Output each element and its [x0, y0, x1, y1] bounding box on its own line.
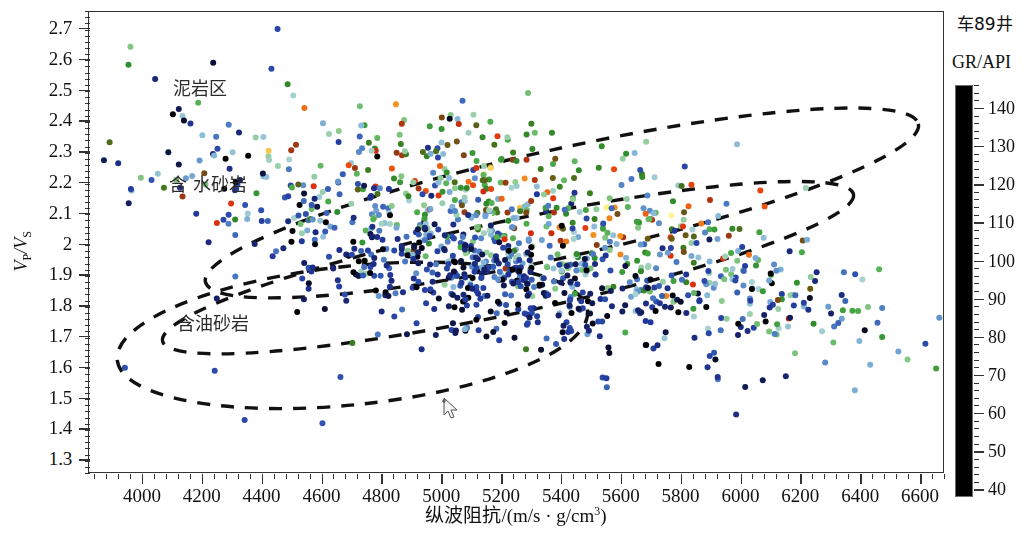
y-axis-minor-tick: [85, 227, 90, 228]
figure-root: 泥岩区 含 水砂岩 含油砂岩 1.31.41.51.61.71.81.922.1…: [0, 0, 1026, 543]
y-axis-minor-tick: [85, 79, 90, 80]
y-axis-minor-tick: [85, 368, 90, 369]
x-axis-major-tick: [322, 474, 324, 484]
colorbar-minor-tick: [974, 93, 979, 94]
x-axis-minor-tick: [537, 474, 538, 479]
x-axis-minor-tick: [190, 474, 191, 479]
x-axis-minor-tick: [94, 474, 95, 479]
y-axis-minor-tick: [85, 374, 90, 375]
y-axis-major-tick: [79, 59, 90, 61]
x-axis-minor-tick: [872, 474, 873, 479]
colorbar-major-tick: [974, 451, 984, 452]
y-axis-minor-tick: [85, 436, 90, 437]
y-axis-major-tick: [79, 428, 90, 430]
y-axis-minor-tick: [85, 128, 90, 129]
colorbar-major-tick: [974, 184, 984, 185]
y-axis-minor-tick: [85, 393, 90, 394]
plot-frame: 泥岩区 含 水砂岩 含油砂岩: [88, 11, 944, 473]
colorbar-title: GR/API: [952, 52, 1011, 73]
colorbar-minor-tick: [974, 436, 979, 437]
y-axis-minor-tick: [85, 288, 90, 289]
x-axis-minor-tick: [226, 474, 227, 479]
x-axis-minor-tick: [417, 474, 418, 479]
y-axis-minor-tick: [85, 362, 90, 363]
colorbar-minor-tick: [974, 116, 979, 117]
x-axis-minor-tick: [645, 474, 646, 479]
colorbar-minor-tick: [974, 314, 979, 315]
y-axis-minor-tick: [85, 424, 90, 425]
y-axis-major-tick: [79, 90, 90, 92]
colorbar-minor-tick: [974, 192, 979, 193]
colorbar-minor-tick: [974, 131, 979, 132]
y-axis-minor-tick: [85, 319, 90, 320]
x-axis-minor-tick: [585, 474, 586, 479]
y-axis-minor-tick: [85, 91, 90, 92]
x-axis-minor-tick: [573, 474, 574, 479]
x-axis-major-tick: [681, 474, 683, 484]
colorbar-minor-tick: [974, 215, 979, 216]
y-axis-tick-label: 1.6: [0, 357, 72, 376]
x-axis-major-tick: [621, 474, 623, 484]
y-axis-minor-tick: [85, 455, 90, 456]
colorbar-minor-tick: [974, 100, 979, 101]
y-axis-minor-tick: [85, 85, 90, 86]
colorbar-minor-tick: [974, 283, 979, 284]
colorbar-major-tick: [974, 375, 984, 376]
x-axis-major-tick: [920, 474, 922, 484]
x-axis-minor-tick: [525, 474, 526, 479]
region-label-water-sandstone: 含 水砂岩: [169, 170, 247, 196]
y-axis-tick-label: 2.7: [0, 18, 72, 37]
colorbar-minor-tick: [974, 421, 979, 422]
y-axis-tick-label: 1.4: [0, 418, 72, 437]
y-axis-minor-tick: [85, 11, 90, 12]
x-axis-minor-tick: [944, 474, 945, 479]
x-axis-minor-tick: [154, 474, 155, 479]
y-axis-major-tick: [79, 120, 90, 122]
y-axis-minor-tick: [85, 30, 90, 31]
y-axis-minor-tick: [85, 214, 90, 215]
y-axis-major-tick: [79, 274, 90, 276]
y-axis-minor-tick: [85, 387, 90, 388]
region-label-mudstone: 泥岩区: [173, 74, 227, 100]
y-axis-minor-tick: [85, 140, 90, 141]
colorbar-major-tick: [974, 489, 984, 490]
y-axis-minor-tick: [85, 110, 90, 111]
y-axis-minor-tick: [85, 233, 90, 234]
x-axis-minor-tick: [489, 474, 490, 479]
colorbar-minor-tick: [974, 268, 979, 269]
colorbar-minor-tick: [974, 467, 979, 468]
colorbar-minor-tick: [974, 238, 979, 239]
y-axis-minor-tick: [85, 356, 90, 357]
y-axis-minor-tick: [85, 97, 90, 98]
colorbar-minor-tick: [974, 253, 979, 254]
y-axis-minor-tick: [85, 264, 90, 265]
y-axis-minor-tick: [85, 301, 90, 302]
colorbar-minor-tick: [974, 322, 979, 323]
colorbar-tick-label: 80: [988, 328, 1006, 346]
y-axis-major-tick: [79, 398, 90, 400]
y-axis-minor-tick: [85, 239, 90, 240]
y-axis-tick-label: 1.5: [0, 388, 72, 407]
colorbar-major-tick: [974, 299, 984, 300]
y-axis-minor-tick: [85, 325, 90, 326]
y-axis-minor-tick: [85, 122, 90, 123]
colorbar-tick-label: 40: [988, 480, 1006, 498]
colorbar-tick-label: 110: [988, 213, 1014, 231]
x-axis-minor-tick: [884, 474, 885, 479]
x-axis-minor-tick: [717, 474, 718, 479]
y-axis-minor-tick: [85, 184, 90, 185]
colorbar-minor-tick: [974, 398, 979, 399]
x-axis-minor-tick: [477, 474, 478, 479]
y-axis-minor-tick: [85, 338, 90, 339]
y-axis-minor-tick: [85, 430, 90, 431]
colorbar-minor-tick: [974, 306, 979, 307]
x-axis-minor-tick: [357, 474, 358, 479]
colorbar-minor-tick: [974, 367, 979, 368]
y-axis-minor-tick: [85, 448, 90, 449]
y-axis-tick-label: 2.2: [0, 172, 72, 191]
x-axis-minor-tick: [465, 474, 466, 479]
colorbar-minor-tick: [974, 428, 979, 429]
x-axis-minor-tick: [118, 474, 119, 479]
colorbar-major-tick: [974, 222, 984, 223]
x-axis-minor-tick: [848, 474, 849, 479]
